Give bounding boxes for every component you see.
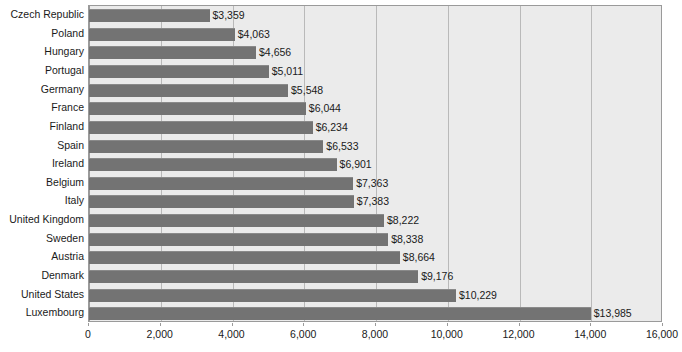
x-axis: 02,0004,0006,0008,00010,00012,00014,0001… bbox=[88, 323, 662, 349]
bar-luxembourg bbox=[89, 307, 591, 320]
x-tick-mark-2000 bbox=[160, 323, 161, 326]
bar-value-label: $6,044 bbox=[309, 101, 341, 115]
category-label-finland: Finland bbox=[0, 119, 84, 133]
category-label-france: France bbox=[0, 100, 84, 114]
bar-row: $6,901 bbox=[89, 155, 662, 175]
x-tick-label-2000: 2,000 bbox=[147, 327, 173, 341]
bar-united-kingdom bbox=[89, 214, 384, 227]
category-label-portugal: Portugal bbox=[0, 63, 84, 77]
category-label-ireland: Ireland bbox=[0, 156, 84, 170]
bar-hungary bbox=[89, 46, 256, 59]
x-tick-mark-10000 bbox=[447, 323, 448, 326]
bar-value-label: $5,011 bbox=[272, 64, 303, 78]
x-tick-mark-8000 bbox=[375, 323, 376, 326]
bar-value-label: $6,901 bbox=[340, 157, 372, 171]
bar-value-label: $8,664 bbox=[403, 250, 435, 264]
bar-row: $6,044 bbox=[89, 99, 662, 119]
bar-value-label: $6,533 bbox=[326, 139, 358, 153]
bar-value-label: $3,359 bbox=[213, 8, 245, 22]
bar-row: $4,063 bbox=[89, 25, 662, 45]
bar-value-label: $7,383 bbox=[357, 194, 389, 208]
bar-portugal bbox=[89, 65, 269, 78]
bar-chart: Czech RepublicPolandHungaryPortugalGerma… bbox=[0, 0, 682, 352]
bar-row: $8,222 bbox=[89, 211, 662, 231]
bar-row: $5,011 bbox=[89, 62, 662, 82]
bar-value-label: $8,222 bbox=[387, 213, 419, 227]
category-label-italy: Italy bbox=[0, 193, 84, 207]
x-tick-mark-4000 bbox=[232, 323, 233, 326]
category-label-luxembourg: Luxembourg bbox=[0, 305, 84, 319]
bar-row: $10,229 bbox=[89, 286, 662, 306]
bar-ireland bbox=[89, 158, 337, 171]
bar-spain bbox=[89, 140, 323, 153]
bar-row: $3,359 bbox=[89, 6, 662, 26]
bar-row: $6,533 bbox=[89, 137, 662, 157]
bar-row: $5,548 bbox=[89, 81, 662, 101]
bar-value-label: $13,985 bbox=[594, 306, 632, 320]
bar-value-label: $8,338 bbox=[391, 232, 423, 246]
category-label-belgium: Belgium bbox=[0, 175, 84, 189]
bar-series: $3,359$4,063$4,656$5,011$5,548$6,044$6,2… bbox=[89, 6, 661, 321]
bar-poland bbox=[89, 28, 235, 41]
bar-finland bbox=[89, 121, 313, 134]
bar-row: $13,985 bbox=[89, 304, 662, 322]
category-label-sweden: Sweden bbox=[0, 231, 84, 245]
bar-value-label: $4,656 bbox=[259, 45, 291, 59]
category-label-denmark: Denmark bbox=[0, 268, 84, 282]
bar-row: $4,656 bbox=[89, 43, 662, 63]
x-tick-mark-6000 bbox=[303, 323, 304, 326]
x-tick-mark-12000 bbox=[519, 323, 520, 326]
x-tick-mark-0 bbox=[88, 323, 89, 326]
bar-austria bbox=[89, 251, 400, 264]
category-axis-labels: Czech RepublicPolandHungaryPortugalGerma… bbox=[0, 5, 84, 322]
bar-france bbox=[89, 102, 306, 115]
x-tick-label-0: 0 bbox=[85, 327, 91, 341]
x-tick-label-10000: 10,000 bbox=[431, 327, 463, 341]
category-label-austria: Austria bbox=[0, 249, 84, 263]
bar-germany bbox=[89, 84, 288, 97]
x-tick-label-16000: 16,000 bbox=[646, 327, 678, 341]
bar-belgium bbox=[89, 177, 353, 190]
bar-denmark bbox=[89, 270, 418, 283]
x-tick-label-4000: 4,000 bbox=[218, 327, 244, 341]
bar-value-label: $7,363 bbox=[356, 176, 388, 190]
bar-value-label: $9,176 bbox=[421, 269, 453, 283]
bar-row: $8,664 bbox=[89, 248, 662, 268]
bar-row: $9,176 bbox=[89, 267, 662, 287]
category-label-united-kingdom: United Kingdom bbox=[0, 212, 84, 226]
category-label-germany: Germany bbox=[0, 82, 84, 96]
category-label-spain: Spain bbox=[0, 138, 84, 152]
bar-sweden bbox=[89, 233, 388, 246]
x-tick-label-8000: 8,000 bbox=[362, 327, 388, 341]
x-tick-label-6000: 6,000 bbox=[290, 327, 316, 341]
bar-value-label: $4,063 bbox=[238, 27, 270, 41]
x-tick-mark-14000 bbox=[590, 323, 591, 326]
plot-area: $3,359$4,063$4,656$5,011$5,548$6,044$6,2… bbox=[88, 5, 662, 322]
category-label-czech-republic: Czech Republic bbox=[0, 7, 84, 21]
bar-row: $8,338 bbox=[89, 230, 662, 250]
bar-value-label: $5,548 bbox=[291, 83, 323, 97]
bar-czech-republic bbox=[89, 9, 210, 22]
category-label-hungary: Hungary bbox=[0, 44, 84, 58]
bar-united-states bbox=[89, 289, 456, 302]
bar-italy bbox=[89, 195, 354, 208]
x-tick-label-14000: 14,000 bbox=[574, 327, 606, 341]
bar-row: $7,363 bbox=[89, 174, 662, 194]
category-label-united-states: United States bbox=[0, 287, 84, 301]
category-label-poland: Poland bbox=[0, 26, 84, 40]
bar-row: $6,234 bbox=[89, 118, 662, 138]
bar-value-label: $10,229 bbox=[459, 288, 497, 302]
bar-value-label: $6,234 bbox=[316, 120, 348, 134]
x-tick-mark-16000 bbox=[662, 323, 663, 326]
bar-row: $7,383 bbox=[89, 192, 662, 212]
x-tick-label-12000: 12,000 bbox=[502, 327, 534, 341]
